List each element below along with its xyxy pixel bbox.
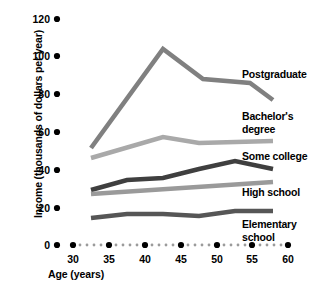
x-tick-label-30: 30: [61, 253, 85, 265]
series-label-postgraduate: Postgraduate: [242, 68, 307, 81]
x-tick-label-40: 40: [133, 253, 157, 265]
y-tick-label-0: 0: [22, 239, 50, 251]
series-label-some-college: Some college: [242, 150, 307, 163]
income-by-age-line-chart: Income (thousands of dollars per year) 1…: [0, 0, 327, 290]
y-tick-label-20: 20: [22, 202, 50, 214]
y-axis-tick-dots: [54, 16, 60, 248]
x-tick-label-35: 35: [97, 253, 121, 265]
y-tick-label-100: 100: [22, 50, 50, 62]
x-tick-label-55: 55: [240, 253, 264, 265]
x-tick-label-50: 50: [205, 253, 229, 265]
x-tick-label-60: 60: [276, 253, 300, 265]
series-label-high-school: High school: [242, 186, 300, 199]
series-line-elementary-school: [91, 211, 273, 218]
y-tick-label-60: 60: [22, 126, 50, 138]
x-tick-label-45: 45: [169, 253, 193, 265]
y-tick-label-80: 80: [22, 88, 50, 100]
series-label-elementary-school: Elementary school: [242, 218, 297, 243]
y-tick-label-120: 120: [22, 13, 50, 25]
x-axis-title: Age (years): [48, 268, 104, 280]
series-label-bachelors-degree: Bachelor's degree: [242, 110, 293, 135]
y-tick-label-40: 40: [22, 164, 50, 176]
